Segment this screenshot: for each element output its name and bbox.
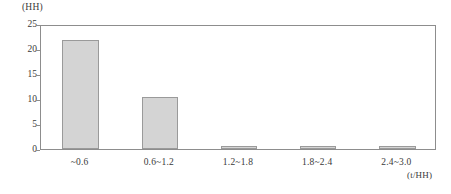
y-axis-unit-label: (HH) (22, 2, 43, 12)
x-axis-tick-label: ~0.6 (71, 157, 89, 167)
bar (379, 146, 415, 149)
x-axis-tick-label: 2.4~3.0 (381, 157, 411, 167)
y-axis-tick-label: 15 (13, 70, 37, 80)
bar (142, 97, 178, 149)
bar-chart-figure: (HH) (t/HH) 0510152025 ~0.60.6~1.21.2~1.… (0, 0, 451, 194)
bar (62, 40, 98, 149)
y-axis-tick-label: 20 (13, 45, 37, 55)
y-axis-tick-mark (36, 150, 40, 151)
plot-area (40, 25, 436, 150)
x-axis-unit-label: (t/HH) (407, 170, 432, 180)
x-axis-tick-label: 0.6~1.2 (144, 157, 174, 167)
x-axis-tick-label: 1.2~1.8 (223, 157, 253, 167)
y-axis-tick-label: 5 (13, 120, 37, 130)
x-axis-tick-label: 1.8~2.4 (302, 157, 332, 167)
y-axis-tick-label: 0 (13, 145, 37, 155)
y-axis-tick-label: 25 (13, 20, 37, 30)
bar (221, 146, 257, 149)
bar (300, 146, 336, 149)
y-axis-tick-label: 10 (13, 95, 37, 105)
